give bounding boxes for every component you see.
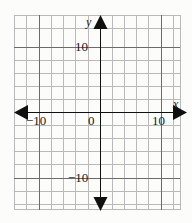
coordinate-grid-screenshot: y x 10 −10 0 −10 10 xyxy=(0,0,192,223)
x-tick-label-positive-10: 10 xyxy=(152,114,165,127)
x-tick-label-negative-10: −10 xyxy=(26,114,46,127)
y-tick-label-negative-10: −10 xyxy=(68,171,88,184)
x-axis-name-label: x xyxy=(173,98,178,111)
y-axis-name-label: y xyxy=(86,16,91,29)
y-tick-label-positive-10: 10 xyxy=(75,40,88,53)
origin-label: 0 xyxy=(88,114,95,127)
coordinate-plane-graphic xyxy=(0,0,192,223)
arrow-up-icon xyxy=(94,15,108,29)
